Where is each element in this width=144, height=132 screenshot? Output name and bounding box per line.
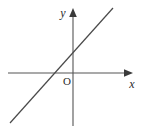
plotted-line: [10, 8, 113, 123]
origin-label: O: [63, 75, 71, 87]
graph-figure: y x O: [0, 0, 144, 132]
y-axis-label: y: [59, 6, 66, 20]
x-axis-arrowhead: [124, 69, 133, 77]
x-axis-label: x: [128, 77, 135, 91]
coordinate-plane-diagram: y x O: [0, 0, 144, 132]
y-axis-arrowhead: [69, 8, 77, 17]
